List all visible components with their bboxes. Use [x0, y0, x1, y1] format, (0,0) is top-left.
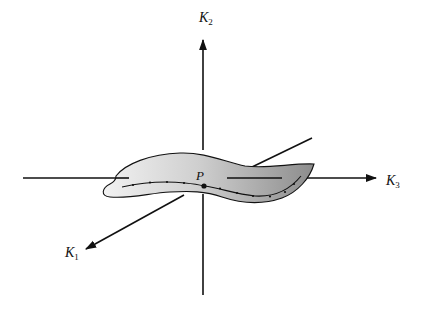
point-p-label: P — [195, 168, 204, 183]
curved-sheet — [103, 153, 314, 203]
point-p — [201, 183, 206, 188]
k1-axis-back — [252, 138, 312, 167]
k1-label: K1 — [64, 245, 79, 262]
axes-diagram: P K2 K3 K1 — [0, 0, 422, 316]
k2-label: K2 — [198, 10, 213, 27]
k3-label: K3 — [385, 173, 400, 190]
k1-axis-front — [86, 195, 184, 249]
